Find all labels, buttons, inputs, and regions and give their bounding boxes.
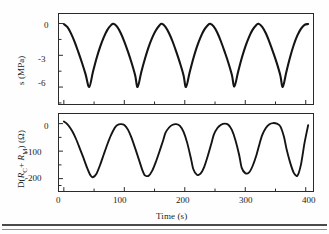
y-axis-label-bottom-suffix: ) (Ω) xyxy=(16,130,26,148)
y-axis-label-top: s (MPa) xyxy=(16,56,26,85)
y-tick-top-2: -6 xyxy=(38,78,46,88)
y-tick-top-1: -3 xyxy=(38,54,46,64)
y-tick-bottom-0: 0 xyxy=(44,121,49,131)
stress-trace xyxy=(64,24,308,87)
figure-container: s (MPa) 0 -3 -6 D(RC+ RM) (Ω) 0 -100 -20… xyxy=(0,0,329,234)
plot-panel-stress xyxy=(58,13,314,105)
plot-panel-resistance xyxy=(58,113,314,192)
axis-ticks-bottom xyxy=(59,124,306,191)
resistance-plot-svg xyxy=(59,114,313,191)
y-tick-bottom-2: -200 xyxy=(25,173,42,183)
y-tick-top-0: 0 xyxy=(44,20,49,30)
x-tick-4: 400 xyxy=(302,195,316,205)
x-tick-3: 300 xyxy=(239,195,253,205)
resistance-trace xyxy=(64,121,308,177)
page-rule-divider-secondary xyxy=(2,229,327,230)
page-rule-divider xyxy=(2,224,327,226)
x-axis-label: Time (s) xyxy=(156,211,187,221)
x-tick-1: 100 xyxy=(113,195,127,205)
y-axis-label-bottom-plus: + xyxy=(16,160,26,168)
y-tick-bottom-1: -100 xyxy=(25,147,42,157)
x-tick-0: 0 xyxy=(56,195,61,205)
stress-plot-svg xyxy=(59,14,313,104)
y-axis-label-bottom-r1-sub: C xyxy=(21,168,29,173)
x-tick-2: 200 xyxy=(176,195,190,205)
